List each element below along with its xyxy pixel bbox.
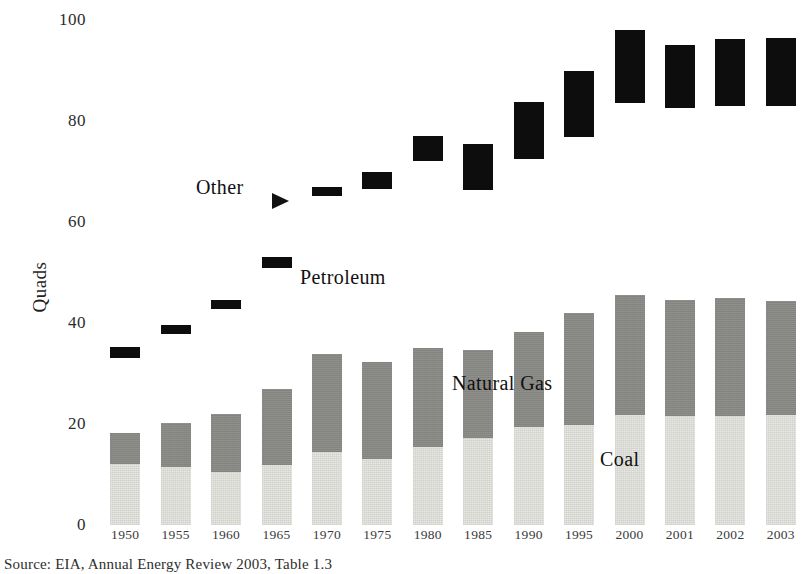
y-tick-label: 60: [26, 212, 100, 232]
y-tick-label: 100: [26, 10, 100, 30]
bar-segment-coal: [161, 467, 191, 525]
y-tick-label: 40: [26, 313, 100, 333]
bar-segment-other: [715, 39, 745, 106]
x-tick-label: 2002: [716, 527, 744, 543]
bar-segment-natural-gas: [110, 433, 140, 465]
bar-segment-natural-gas: [312, 354, 342, 452]
y-tick-label: 80: [26, 111, 100, 131]
bar-column: [413, 20, 443, 525]
bar-column: [564, 20, 594, 525]
annotation-other: Other: [196, 176, 244, 199]
bar-segment-coal: [110, 464, 140, 525]
bar-segment-other: [110, 347, 140, 359]
bar-segment-coal: [211, 472, 241, 525]
bar-segment-natural-gas: [413, 348, 443, 446]
bar-segment-natural-gas: [362, 362, 392, 459]
bar-segment-coal: [262, 465, 292, 525]
bar-column: [161, 20, 191, 525]
bar-segment-other: [161, 325, 191, 334]
bar-segment-natural-gas: [766, 301, 796, 415]
bar-column: [665, 20, 695, 525]
annotation-petroleum: Petroleum: [300, 266, 386, 289]
x-tick-label: 1960: [212, 527, 240, 543]
x-tick-label: 2003: [767, 527, 795, 543]
bar-segment-coal: [362, 459, 392, 525]
y-axis-title: Quads: [29, 261, 51, 312]
other-pointer-arrow-icon: [272, 193, 289, 209]
bar-segment-coal: [564, 425, 594, 525]
bar-segment-other: [312, 187, 342, 196]
bar-segment-natural-gas: [665, 300, 695, 416]
bar-segment-coal: [766, 415, 796, 525]
y-tick-label: 0: [26, 515, 100, 535]
bar-segment-natural-gas: [615, 295, 645, 415]
bar-segment-other: [413, 136, 443, 161]
x-tick-label: 1955: [162, 527, 190, 543]
bar-segment-other: [262, 257, 292, 268]
x-tick-label: 1965: [262, 527, 290, 543]
bar-segment-coal: [665, 416, 695, 525]
bar-segment-natural-gas: [211, 414, 241, 472]
x-tick-label: 1970: [313, 527, 341, 543]
plot-area: 0204060801001950195519601965197019751980…: [100, 20, 806, 525]
bar-segment-coal: [413, 447, 443, 525]
bar-segment-other: [514, 102, 544, 159]
bar-segment-natural-gas: [161, 423, 191, 467]
annotation-natural-gas: Natural Gas: [452, 372, 552, 395]
bar-segment-other: [615, 30, 645, 103]
bar-column: [110, 20, 140, 525]
x-tick-label: 2000: [615, 527, 643, 543]
bar-segment-coal: [312, 452, 342, 525]
source-note: Source: EIA, Annual Energy Review 2003, …: [4, 556, 332, 573]
bar-segment-coal: [463, 438, 493, 525]
bar-column: [211, 20, 241, 525]
bar-segment-natural-gas: [715, 298, 745, 417]
bar-segment-other: [564, 71, 594, 138]
x-tick-label: 1995: [565, 527, 593, 543]
bar-segment-other: [766, 38, 796, 106]
bar-column: [766, 20, 796, 525]
x-tick-label: 1950: [111, 527, 139, 543]
bar-column: [514, 20, 544, 525]
energy-consumption-chart: Quads 0204060801001950195519601965197019…: [0, 0, 806, 574]
x-tick-label: 1990: [515, 527, 543, 543]
bar-column: [463, 20, 493, 525]
bar-segment-other: [665, 45, 695, 108]
bar-segment-natural-gas: [262, 389, 292, 466]
bar-column: [262, 20, 292, 525]
x-tick-label: 2001: [666, 527, 694, 543]
bar-segment-coal: [514, 427, 544, 525]
bar-segment-other: [211, 300, 241, 309]
bar-column: [715, 20, 745, 525]
bar-segment-natural-gas: [564, 313, 594, 425]
bar-segment-other: [362, 172, 392, 190]
bar-segment-other: [463, 144, 493, 190]
y-tick-label: 20: [26, 414, 100, 434]
annotation-coal: Coal: [600, 448, 639, 471]
x-tick-label: 1975: [363, 527, 391, 543]
x-tick-label: 1985: [464, 527, 492, 543]
bar-segment-coal: [715, 416, 745, 525]
x-tick-label: 1980: [414, 527, 442, 543]
